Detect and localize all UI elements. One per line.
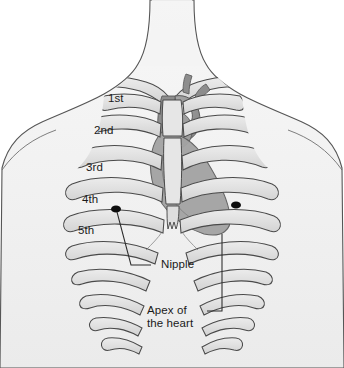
rib-label-2nd: 2nd	[94, 124, 114, 137]
rib-label-5th: 5th	[78, 224, 94, 237]
illustration-canvas: 1st 2nd 3rd 4th 5th Nipple Apex of the h…	[0, 0, 344, 368]
rib-label-4th: 4th	[82, 193, 98, 206]
rib-label-3rd: 3rd	[86, 161, 103, 174]
apex-label-line1: Apex of	[147, 304, 187, 317]
apex-label-line2: the heart	[147, 317, 193, 330]
nipple-label: Nipple	[161, 258, 194, 271]
rib-label-1st: 1st	[108, 92, 124, 105]
xiphoid-process	[167, 206, 179, 229]
